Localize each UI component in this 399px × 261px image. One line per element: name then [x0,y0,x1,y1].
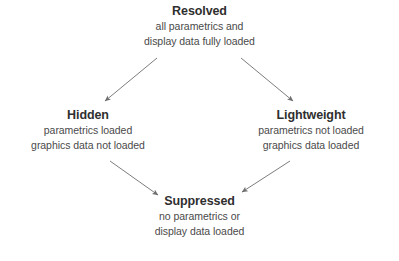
node-hidden: Hidden parametrics loaded graphics data … [0,108,176,153]
node-resolved-title: Resolved [0,4,399,19]
edge-resolved-to-hidden [105,58,157,101]
edge-resolved-to-lightweight [241,58,293,101]
state-flow-diagram: Resolved all parametrics and display dat… [0,0,399,261]
node-suppressed-title: Suppressed [0,194,399,209]
node-resolved-line-2: display data fully loaded [0,34,399,49]
node-lightweight-title: Lightweight [223,108,399,123]
node-resolved: Resolved all parametrics and display dat… [0,4,399,49]
node-lightweight-line-2: graphics data loaded [223,138,399,153]
node-lightweight: Lightweight parametrics not loaded graph… [223,108,399,153]
node-hidden-line-1: parametrics loaded [0,123,176,138]
node-suppressed-line-2: display data loaded [0,224,399,239]
node-hidden-title: Hidden [0,108,176,123]
node-hidden-line-2: graphics data not loaded [0,138,176,153]
node-suppressed: Suppressed no parametrics or display dat… [0,194,399,239]
node-lightweight-line-1: parametrics not loaded [223,123,399,138]
node-suppressed-line-1: no parametrics or [0,209,399,224]
edge-lightweight-to-suppressed [242,161,290,192]
edge-hidden-to-suppressed [110,161,158,195]
node-resolved-line-1: all parametrics and [0,19,399,34]
